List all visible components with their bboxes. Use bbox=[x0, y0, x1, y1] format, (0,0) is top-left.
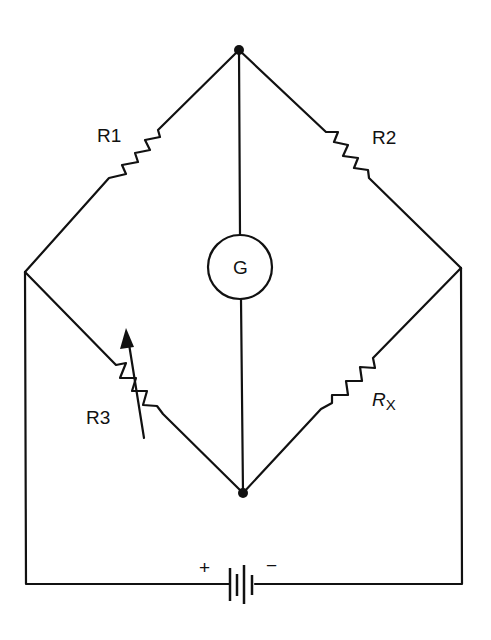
resistor-r3 bbox=[25, 272, 243, 493]
wheatstone-bridge-diagram: R1 R2 R3 RX G + − bbox=[0, 0, 491, 640]
variable-arrow-icon bbox=[120, 328, 144, 438]
rx-label: RX bbox=[372, 389, 396, 413]
resistor-r2 bbox=[239, 50, 461, 268]
galvanometer-label: G bbox=[233, 257, 248, 278]
battery-icon bbox=[230, 565, 252, 604]
battery-plus-label: + bbox=[199, 557, 210, 578]
r3-label: R3 bbox=[86, 407, 110, 428]
battery-minus-label: − bbox=[266, 555, 277, 576]
bottom-node-dot bbox=[238, 488, 248, 498]
resistor-rx bbox=[243, 268, 461, 493]
resistor-r1 bbox=[25, 50, 239, 272]
r2-label: R2 bbox=[372, 127, 396, 148]
r1-label: R1 bbox=[97, 125, 121, 146]
top-node-dot bbox=[234, 45, 244, 55]
